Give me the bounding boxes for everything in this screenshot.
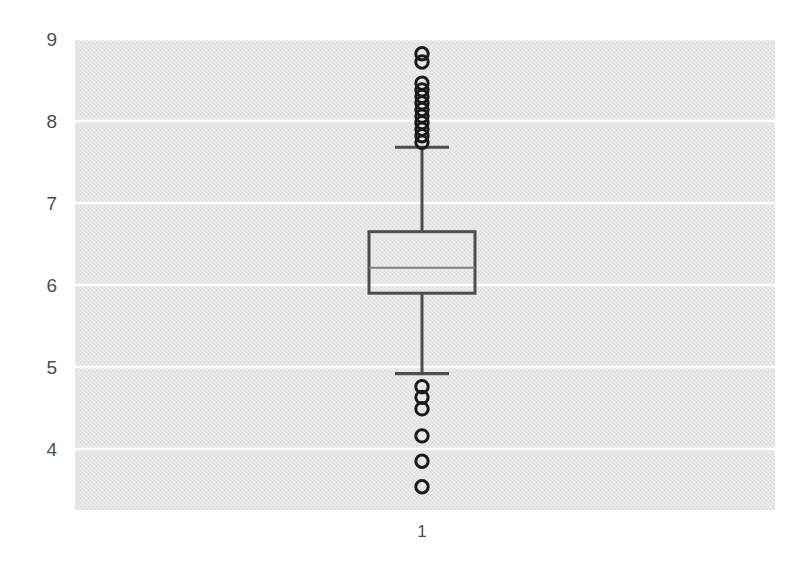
y-axis-tick-label: 5 <box>46 357 57 378</box>
figure-canvas: 4567891 <box>0 0 806 575</box>
x-axis-tick-label: 1 <box>417 522 426 541</box>
x-axis-ticks: 1 <box>417 522 426 541</box>
y-axis-tick-label: 6 <box>46 275 57 296</box>
y-axis-tick-label: 9 <box>46 29 57 50</box>
y-axis-tick-label: 7 <box>46 193 57 214</box>
y-axis-tick-label: 8 <box>46 111 57 132</box>
y-axis-tick-label: 4 <box>46 439 57 460</box>
box-plot-chart: 4567891 <box>0 0 806 575</box>
